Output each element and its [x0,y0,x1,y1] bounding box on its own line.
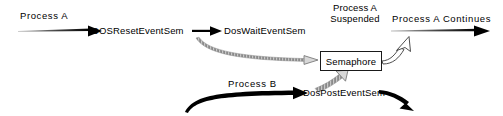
label-process-a-suspended-line1: Process A [319,2,391,13]
label-dos-post-event-sem: DosPostEventSem [303,87,385,98]
process-a-entry-arrow [18,25,102,36]
reset-to-wait-arrow [192,26,222,36]
label-process-b: Process B [228,78,277,89]
process-a-continues-arrow [391,25,490,36]
wait-to-semaphore-arrow [196,37,318,64]
label-process-a-continues: Process A Continues [392,13,491,24]
semaphore-node: Semaphore [320,51,382,71]
label-process-a: Process A [20,10,68,21]
semaphore-to-continue-arrow [382,37,411,65]
label-dos-reset-event-sem: DOSResetEventSem [92,25,184,36]
semaphore-flow-diagram: Process A DOSResetEventSem DosWaitEventS… [0,0,503,116]
process-b-entry-arrow [185,87,308,113]
label-dos-wait-event-sem: DosWaitEventSem [224,25,306,36]
label-semaphore: Semaphore [326,56,376,67]
label-process-a-suspended-line2: Suspended [319,13,391,24]
